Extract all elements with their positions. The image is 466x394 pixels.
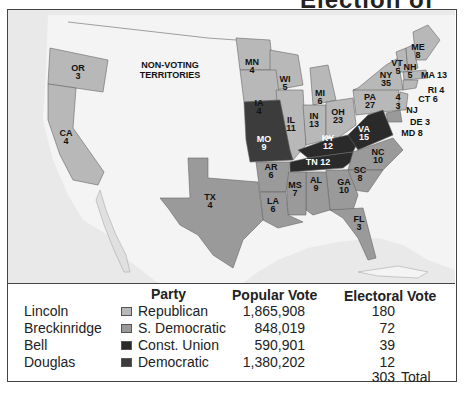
- total-label: Total: [401, 369, 431, 385]
- popular-vote: 1,865,908: [243, 303, 305, 319]
- ev-al: 9: [313, 183, 318, 193]
- electoral-vote: 72: [379, 320, 395, 336]
- ev-nc: 10: [373, 155, 383, 165]
- republican-swatch-icon: [121, 307, 132, 316]
- table-row: Bell Const. Union 590,901 39: [8, 337, 455, 354]
- ev-mn: 4: [249, 65, 254, 75]
- ev-fl: 3: [356, 222, 361, 232]
- ev-mo: 9: [261, 142, 266, 152]
- ev-ia: 4: [256, 106, 261, 116]
- ev-in: 13: [309, 119, 319, 129]
- map-title: Election of 1860: [0, 0, 466, 8]
- table-row: Breckinridge S. Democratic 848,019 72: [8, 320, 455, 337]
- total-row: 303 Total: [8, 369, 455, 386]
- party-name: S. Democratic: [138, 320, 226, 336]
- us-map: NON-VOTING TERRITORIES OR 3 CA 4 MN 4 WI…: [8, 10, 455, 284]
- const-union-swatch-icon: [121, 341, 132, 350]
- s-democratic-swatch-icon: [121, 324, 132, 333]
- label-nj: NJ: [406, 105, 418, 115]
- ev-mi: 6: [317, 96, 322, 106]
- ev-la: 6: [270, 204, 275, 214]
- ev-ga: 10: [339, 185, 349, 195]
- candidate-name: Lincoln: [24, 303, 68, 319]
- ev-pa: 27: [365, 100, 375, 110]
- ev-ny: 35: [381, 78, 391, 88]
- candidate-name: Douglas: [24, 354, 75, 370]
- ev-wi: 5: [282, 82, 287, 92]
- popular-vote: 1,380,202: [243, 354, 305, 370]
- popular-vote: 848,019: [254, 320, 305, 336]
- ev-oh: 23: [333, 115, 343, 125]
- ev-va: 15: [359, 132, 369, 142]
- label-ct: CT 6: [418, 94, 438, 104]
- democratic-swatch-icon: [121, 358, 132, 367]
- party-name: Democratic: [138, 354, 209, 370]
- party-name: Const. Union: [138, 337, 219, 353]
- label-tn: TN 12: [306, 157, 331, 167]
- map-svg: NON-VOTING TERRITORIES OR 3 CA 4 MN 4 WI…: [8, 10, 455, 283]
- ev-nh: 5: [407, 70, 412, 80]
- header-party: Party: [151, 286, 186, 302]
- ev-ky: 12: [323, 141, 333, 151]
- ev-ca: 4: [63, 136, 68, 146]
- electoral-vote: 12: [379, 354, 395, 370]
- ev-me: 8: [415, 50, 420, 60]
- candidate-name: Bell: [24, 337, 47, 353]
- electoral-vote: 180: [372, 303, 395, 319]
- party-name: Republican: [138, 303, 208, 319]
- label-md: MD 8: [401, 128, 423, 138]
- header-popular-vote: Popular Vote: [232, 287, 317, 303]
- total-electoral-vote: 303: [372, 369, 395, 385]
- territories-label-1: NON-VOTING: [141, 60, 199, 70]
- ev-il: 11: [286, 123, 296, 133]
- label-de: DE 3: [410, 117, 430, 127]
- electoral-vote: 39: [379, 337, 395, 353]
- ev-sc: 8: [357, 173, 362, 183]
- header-electoral-vote: Electoral Vote: [344, 288, 436, 304]
- ev-or: 3: [75, 71, 80, 81]
- territories-label-2: TERRITORIES: [140, 70, 200, 80]
- map-title-text: Election of 1860: [300, 0, 466, 8]
- election-map-figure: NON-VOTING TERRITORIES OR 3 CA 4 MN 4 WI…: [7, 9, 457, 382]
- results-table: Party Popular Vote Electoral Vote Lincol…: [8, 283, 455, 381]
- table-row: Lincoln Republican 1,865,908 180: [8, 303, 455, 320]
- label-ma: MA 13: [421, 70, 447, 80]
- ev-ms: 7: [292, 188, 297, 198]
- popular-vote: 590,901: [254, 337, 305, 353]
- ev-ar: 6: [268, 170, 273, 180]
- ev-vt: 5: [395, 66, 400, 76]
- label-nj-3: 3: [395, 101, 400, 111]
- candidate-name: Breckinridge: [24, 320, 102, 336]
- ev-tx: 4: [207, 200, 212, 210]
